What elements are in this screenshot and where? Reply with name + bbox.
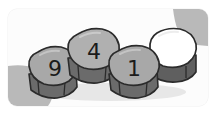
stone-tile-3-digit: 1 [127,56,141,81]
stone-tiles-illustration: 9 4 1 [0,0,216,114]
stone-tile-1-digit: 9 [48,56,62,81]
stone-tile-3: 1 [109,46,159,99]
illustration-canvas: 9 4 1 [0,0,216,114]
stone-tile-2-digit: 4 [87,39,101,64]
